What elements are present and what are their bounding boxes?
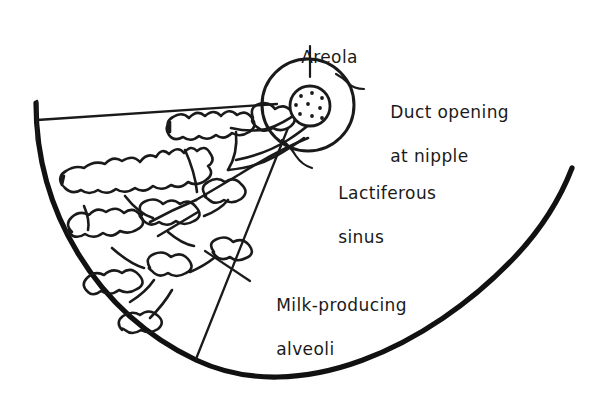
label-milk-producing-alveoli: Milk-producing alveoli [253, 272, 407, 382]
alveoli-branch-5 [168, 232, 194, 246]
duct-opening-dot [318, 106, 322, 110]
alveoli-lobe-upper-mid [167, 111, 255, 140]
alveoli-branch-3 [228, 132, 236, 170]
alveoli-branch-7 [190, 258, 214, 272]
leader-line-alveoli [205, 251, 250, 281]
alveoli-lobe-lower-center [148, 253, 192, 276]
duct-opening-dot [310, 91, 314, 95]
alveoli-branch-9 [84, 206, 89, 230]
label-duct-line1: Duct opening [390, 102, 509, 122]
label-alveoli-line1: Milk-producing [276, 295, 407, 315]
duct-opening-dot [320, 96, 324, 100]
label-areola: Areola [278, 24, 358, 90]
alveoli-branch-4 [112, 248, 144, 268]
alveoli-lobe-lower-left [84, 270, 143, 294]
breast-anatomy-diagram: Areola Duct opening at nipple Lactiferou… [0, 0, 602, 414]
label-lactiferous-sinus: Lactiferous sinus [315, 160, 436, 270]
duct-opening-dot [299, 94, 303, 98]
duct-opening-dot [294, 103, 298, 107]
label-alveoli-line2: alveoli [276, 339, 334, 359]
alveoli-branch-8 [150, 290, 172, 318]
alveoli-lobe-lower-right [211, 238, 252, 261]
label-sinus-line2: sinus [338, 227, 384, 247]
alveoli-branch-2 [185, 150, 197, 192]
alveoli-lobe-mid-left [67, 209, 143, 237]
duct-opening-dot [298, 112, 302, 116]
label-sinus-line1: Lactiferous [338, 183, 436, 203]
duct-opening-dot [320, 116, 324, 120]
alveoli-lobe-upper-left [60, 148, 212, 193]
duct-opening-dot [310, 114, 314, 118]
duct-opening-dot [306, 102, 310, 106]
duct-sinus-lower [228, 138, 304, 170]
label-areola-line1: Areola [301, 47, 358, 67]
